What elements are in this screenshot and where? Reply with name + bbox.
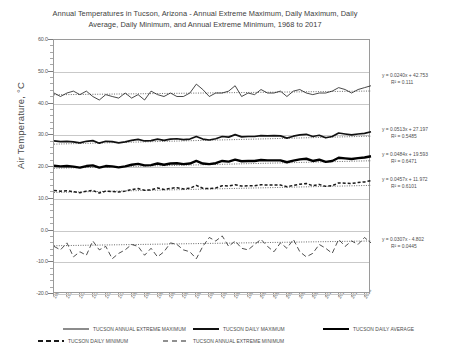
legend-swatch-icon (323, 325, 349, 333)
legend-label: TUCSON ANNUAL EXTREME MAXIMUM (93, 327, 186, 332)
gridline (54, 294, 369, 295)
y-axis-tick-label: 60.0 (22, 36, 48, 42)
y-axis-tick-label: 20.0 (22, 163, 48, 169)
data-series-layer (54, 40, 371, 294)
trendline-equation-0: y = 0.0240x + 42.753R² = 0.111 (382, 72, 428, 86)
legend-item[interactable]: TUCSON DAILY AVERAGE (323, 325, 414, 333)
y-axis-tick-label: 50.0 (22, 68, 48, 74)
equation-text: y = 0.0513x + 27.197 (382, 127, 428, 132)
chart-container: Annual Temperatures in Tucson, Arizona -… (0, 0, 456, 361)
y-axis-tick-label: 0.0 (22, 227, 48, 233)
legend-item[interactable]: TUCSON ANNUAL EXTREME MINIMUM (163, 337, 284, 345)
equation-text: y = 0.0457x + 11.972 (382, 177, 428, 182)
trendline-equation-1: y = 0.0513x + 27.197R² = 0.5485 (382, 126, 428, 140)
r-squared-text: R² = 0.0445 (382, 243, 424, 250)
trendline-equation-3: y = 0.0457x + 11.972R² = 0.6101 (382, 176, 428, 190)
y-axis-tick-label: 30.0 (22, 131, 48, 137)
chart-title: Annual Temperatures in Tucson, Arizona -… (40, 8, 370, 30)
r-squared-text: R² = 0.5485 (382, 133, 428, 140)
r-squared-text: R² = 0.6471 (382, 158, 428, 165)
r-squared-text: R² = 0.111 (382, 79, 428, 86)
legend-label: TUCSON DAILY MINIMUM (68, 339, 128, 344)
y-axis-tick-label: -10.0 (22, 258, 48, 264)
series-line-3 (54, 181, 371, 193)
trendline-equation-2: y = 0.0484x + 19.593R² = 0.6471 (382, 151, 428, 165)
equation-text: y = 0.0307x - 4.802 (382, 237, 424, 242)
chart-title-line-1: Annual Temperatures in Tucson, Arizona -… (53, 9, 339, 18)
legend-label: TUCSON DAILY MAXIMUM (223, 327, 285, 332)
legend-label: TUCSON DAILY AVERAGE (353, 327, 414, 332)
r-squared-text: R² = 0.6101 (382, 183, 428, 190)
legend-swatch-icon (38, 337, 64, 345)
legend-item[interactable]: TUCSON ANNUAL EXTREME MAXIMUM (63, 325, 186, 333)
series-line-0 (54, 84, 371, 100)
legend-item[interactable]: TUCSON DAILY MINIMUM (38, 337, 128, 345)
y-axis-tick-label: -20.0 (22, 290, 48, 296)
series-line-4 (54, 236, 371, 259)
series-line-2 (54, 156, 371, 167)
legend-item[interactable]: TUCSON DAILY MAXIMUM (193, 325, 285, 333)
equation-text: y = 0.0484x + 19.593 (382, 152, 428, 157)
series-line-1 (54, 132, 371, 143)
trendline-4 (54, 241, 371, 246)
y-axis-tick-label: 40.0 (22, 100, 48, 106)
plot-area (53, 39, 370, 293)
trendline-equation-4: y = 0.0307x - 4.802R² = 0.0445 (382, 236, 424, 250)
legend-swatch-icon (193, 325, 219, 333)
legend-label: TUCSON ANNUAL EXTREME MINIMUM (193, 339, 284, 344)
legend-swatch-icon (163, 337, 189, 345)
legend-swatch-icon (63, 325, 89, 333)
equation-text: y = 0.0240x + 42.753 (382, 73, 428, 78)
y-axis-tick-label: 10.0 (22, 195, 48, 201)
